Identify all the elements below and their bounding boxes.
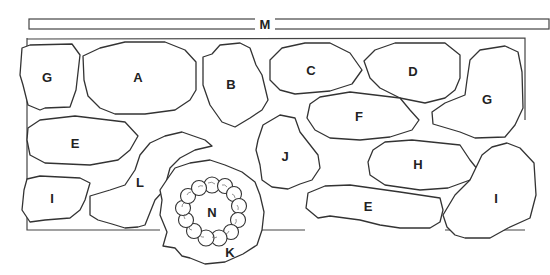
bead xyxy=(232,199,247,214)
region-i-left-label: I xyxy=(50,191,54,206)
region-j-label: J xyxy=(281,149,288,164)
region-f-label: F xyxy=(355,109,363,124)
region-i-right-label: I xyxy=(494,191,498,206)
region-h-shape xyxy=(368,140,478,190)
bead xyxy=(192,181,207,196)
region-e-bottom: E xyxy=(306,185,443,228)
region-n-label: N xyxy=(207,205,216,220)
region-g-top-left: G xyxy=(20,44,80,110)
region-i-left-shape xyxy=(22,176,90,222)
region-e-left-label: E xyxy=(71,136,80,151)
bar-m-label: M xyxy=(260,17,271,32)
region-e-left-shape xyxy=(27,116,138,165)
region-h-label: H xyxy=(413,157,422,172)
region-a: A xyxy=(83,42,196,114)
region-a-label: A xyxy=(133,70,143,85)
region-f: F xyxy=(307,92,419,140)
region-c: C xyxy=(270,43,362,94)
region-l-label: L xyxy=(136,175,144,190)
diagram-canvas: M G A B C D G E F J xyxy=(0,0,550,275)
region-e-left: E xyxy=(27,116,138,165)
region-d-label: D xyxy=(408,64,417,79)
region-j: J xyxy=(256,115,320,189)
region-c-shape xyxy=(270,43,362,94)
region-d: D xyxy=(364,43,460,103)
region-i-left: I xyxy=(22,176,90,222)
bar-m: M xyxy=(29,15,549,33)
region-b: B xyxy=(203,43,268,127)
region-e-bottom-label: E xyxy=(364,199,373,214)
region-b-label: B xyxy=(226,77,235,92)
bar-m-outline xyxy=(29,19,549,29)
region-g-top-left-label: G xyxy=(42,70,52,85)
region-g-right-label: G xyxy=(482,92,492,107)
region-k-label: K xyxy=(225,245,235,260)
region-h: H xyxy=(368,140,478,190)
region-e-bottom-shape xyxy=(306,185,443,228)
region-f-shape xyxy=(307,92,419,140)
region-c-label: C xyxy=(306,63,316,78)
